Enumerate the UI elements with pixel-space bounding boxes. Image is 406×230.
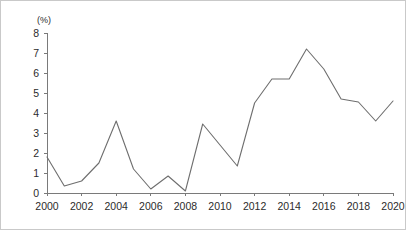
x-tick-label: 2010 xyxy=(208,200,232,212)
y-tick-label: 7 xyxy=(33,47,39,59)
y-tick-label: 1 xyxy=(33,167,39,179)
y-axis-unit-label: (%) xyxy=(37,15,51,25)
x-tick-label: 2000 xyxy=(35,200,59,212)
x-tick-label: 2004 xyxy=(105,200,129,212)
line-chart-figure: (%) 012345678 20002002200420062008201020… xyxy=(0,0,406,230)
chart-plot-area: (%) 012345678 20002002200420062008201020… xyxy=(1,1,406,230)
data-series-line xyxy=(47,49,393,191)
x-tick-label: 2018 xyxy=(347,200,371,212)
y-tick-label: 4 xyxy=(33,107,39,119)
x-tick-label: 2002 xyxy=(70,200,94,212)
y-tick-label: 0 xyxy=(33,187,39,199)
x-tick-label: 2012 xyxy=(243,200,267,212)
x-tick-label: 2020 xyxy=(381,200,405,212)
y-tick-label: 5 xyxy=(33,87,39,99)
y-tick-label: 2 xyxy=(33,147,39,159)
y-tick-label: 8 xyxy=(33,27,39,39)
y-tick-label: 3 xyxy=(33,127,39,139)
x-tick-label: 2014 xyxy=(278,200,302,212)
x-tick-label: 2016 xyxy=(312,200,336,212)
x-tick-label: 2008 xyxy=(174,200,198,212)
y-axis-tick-labels: 012345678 xyxy=(33,27,39,199)
y-axis-unit-group: (%) xyxy=(37,15,51,25)
x-tick-label: 2006 xyxy=(139,200,163,212)
y-tick-label: 6 xyxy=(33,67,39,79)
x-axis-tick-labels: 2000200220042006200820102012201420162018… xyxy=(35,200,405,212)
